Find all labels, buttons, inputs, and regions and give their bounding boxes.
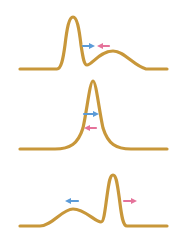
diagram-stage [0,0,183,242]
profile-curve-bottom [20,175,167,226]
panel-bottom [20,175,167,226]
panel-middle [20,81,167,149]
panel-top [20,17,167,69]
profile-curve-top [20,17,167,69]
diagram-canvas [0,0,183,242]
